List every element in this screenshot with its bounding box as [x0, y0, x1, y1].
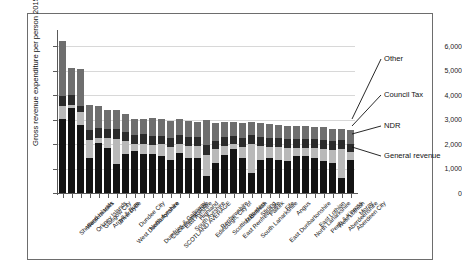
bar-segment-council-tax — [149, 136, 156, 145]
x-axis-tick — [144, 194, 145, 198]
bar-segment-general-revenue — [311, 158, 318, 193]
bar-aberdeen-city — [338, 34, 345, 193]
bar-scottish-borders — [212, 34, 219, 193]
bar-segment-other — [185, 121, 192, 137]
bar-segment-other — [239, 123, 246, 137]
bar-moray — [347, 34, 354, 193]
x-axis-tick — [225, 194, 226, 198]
figure-container: Gross revenue expenditure per person 201… — [0, 0, 462, 277]
bar-orkney-islands — [77, 34, 84, 193]
bar-segment-other — [104, 110, 111, 129]
bar-segment-ndr — [158, 144, 165, 156]
bar-segment-ndr — [140, 144, 147, 154]
bar-segment-council-tax — [266, 138, 273, 147]
y-axis-tick — [53, 169, 58, 170]
x-axis-tick — [216, 194, 217, 198]
bar-segment-ndr — [149, 145, 156, 155]
bar-segment-ndr — [221, 146, 228, 155]
bar-segment-council-tax — [203, 145, 210, 155]
x-axis-tick — [207, 194, 208, 198]
bar-segment-council-tax — [104, 129, 111, 139]
annotation-council-tax: Council Tax — [384, 91, 423, 99]
bar-east-lothian — [302, 34, 309, 193]
x-axis-tick — [63, 194, 64, 198]
bar-segment-other — [230, 122, 237, 135]
bar-renfrewshire — [203, 34, 210, 193]
bar-segment-council-tax — [257, 137, 264, 146]
bar-segment-ndr — [131, 144, 138, 151]
bar-segment-general-revenue — [95, 143, 102, 193]
bar-shetland-islands — [59, 34, 66, 193]
bar-segment-ndr — [293, 148, 300, 156]
bar-segment-council-tax — [302, 139, 309, 148]
bar-segment-council-tax — [176, 135, 183, 144]
bar-segment-ndr — [68, 105, 75, 108]
bar-segment-ndr — [347, 152, 354, 159]
bar-segment-general-revenue — [167, 160, 174, 193]
bar-dundee-city — [122, 34, 129, 193]
bar-segment-council-tax — [329, 141, 336, 150]
bar-segment-general-revenue — [77, 125, 84, 193]
bar-segment-council-tax — [275, 138, 282, 147]
bar-segment-general-revenue — [212, 163, 219, 193]
bar-segment-other — [68, 68, 75, 95]
y-axis-tick-label: 0 — [458, 190, 462, 197]
bar-north-lanarkshire — [293, 34, 300, 193]
x-axis-tick — [279, 194, 280, 198]
bar-segment-general-revenue — [185, 158, 192, 193]
bar-segment-other — [131, 119, 138, 135]
bar-segment-other — [329, 129, 336, 142]
x-axis-line — [57, 193, 358, 194]
bar-east-dunbartonshire — [266, 34, 273, 193]
bar-segment-ndr — [320, 149, 327, 161]
bar-segment-general-revenue — [194, 158, 201, 193]
x-axis-tick — [315, 194, 316, 198]
x-axis-tick — [108, 194, 109, 198]
y-axis-tick-label: 4,000 — [444, 92, 462, 99]
bar-segment-other — [293, 126, 300, 139]
bar-segment-general-revenue — [113, 164, 120, 193]
bar-segment-other — [158, 119, 165, 136]
bar-segment-other — [59, 41, 66, 95]
x-axis-tick — [252, 194, 253, 198]
bar-segment-other — [149, 118, 156, 135]
bar-segment-council-tax — [95, 128, 102, 138]
y-axis-tick — [53, 144, 58, 145]
bar-segment-general-revenue — [140, 154, 147, 193]
bar-segment-ndr — [338, 149, 345, 178]
bar-segment-council-tax — [158, 136, 165, 145]
bar-east-ayrshire — [167, 34, 174, 193]
bar-segment-general-revenue — [104, 148, 111, 193]
x-axis-tick — [333, 194, 334, 198]
y-axis-tick-label: 5,000 — [444, 67, 462, 74]
x-axis-tick — [180, 194, 181, 198]
x-axis-tick — [306, 194, 307, 198]
bar-segment-other — [248, 122, 255, 136]
x-axis-tick — [270, 194, 271, 198]
bar-segment-council-tax — [140, 134, 147, 143]
bar-segment-other — [203, 120, 210, 145]
bar-segment-other — [257, 123, 264, 137]
x-axis-tick — [324, 194, 325, 198]
bar-segment-council-tax — [347, 144, 354, 153]
y-axis-tick — [53, 95, 58, 96]
bar-segment-general-revenue — [257, 160, 264, 193]
bar-segment-general-revenue — [176, 153, 183, 193]
bar-segment-council-tax — [86, 130, 93, 140]
bar-north-ayrshire — [131, 34, 138, 193]
bar-segment-other — [113, 110, 120, 130]
bar-segment-other — [275, 125, 282, 138]
bar-segment-council-tax — [338, 140, 345, 149]
bar-west-lothian — [320, 34, 327, 193]
bar-segment-council-tax — [131, 135, 138, 144]
bar-segment-other — [221, 122, 228, 136]
bar-segment-council-tax — [185, 137, 192, 146]
bar-segment-ndr — [248, 144, 255, 173]
bar-segment-ndr — [302, 148, 309, 156]
y-axis-tick-labels — [0, 0, 52, 200]
x-axis-tick — [234, 194, 235, 198]
bar-glasgow-city — [86, 34, 93, 193]
y-axis-tick — [53, 71, 58, 72]
bar-south-ayrshire — [176, 34, 183, 193]
bar-segment-other — [77, 69, 84, 106]
